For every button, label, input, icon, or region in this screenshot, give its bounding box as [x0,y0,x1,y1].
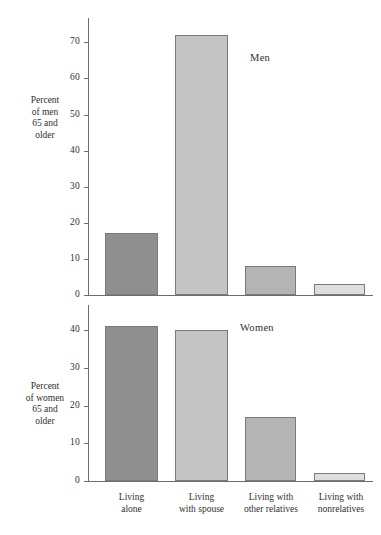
y-axis-title-women-line-1: Percent [8,381,82,393]
x-axis-line-women [88,481,373,482]
bar-women-living-with-nonrelatives [314,473,365,481]
y-tick-women-20 [84,406,89,407]
y-tick-women-40 [84,330,89,331]
y-tick-women-30 [84,368,89,369]
category-label-living-alone-line-1: Living [99,492,164,504]
bar-women-living-alone [105,326,158,481]
y-tick-label-women-40: 40 [58,325,80,335]
category-label-living-with-nonrelatives: Living with nonrelatives [305,492,377,515]
category-label-living-with-nonrelatives-line-1: Living with [305,492,377,504]
y-axis-title-women-line-4: older [8,416,82,428]
category-label-living-alone: Living alone [99,492,164,515]
category-label-living-with-nonrelatives-line-2: nonrelatives [305,504,377,516]
bar-women-living-with-other-relatives [245,417,296,481]
y-tick-label-women-10: 10 [58,438,80,448]
chart-page: Percent of men 65 and older Men 0 10 20 … [0,0,381,535]
y-axis-line-women [88,305,89,481]
bar-women-living-with-spouse [175,330,228,481]
category-label-living-alone-line-2: alone [99,504,164,516]
category-label-living-with-spouse-line-1: Living [164,492,239,504]
category-label-living-with-other-relatives-line-2: other relatives [232,504,310,516]
category-label-living-with-other-relatives-line-1: Living with [232,492,310,504]
y-tick-label-women-30: 30 [58,363,80,373]
y-tick-label-women-20: 20 [58,401,80,411]
y-tick-women-10 [84,443,89,444]
category-label-living-with-other-relatives: Living with other relatives [232,492,310,515]
category-label-living-with-spouse: Living with spouse [164,492,239,515]
series-label-women: Women [240,322,274,333]
category-label-living-with-spouse-line-2: with spouse [164,504,239,516]
y-tick-women-0 [84,481,89,482]
chart-panel-women: Percent of women 65 and older Women 0 10… [0,0,381,535]
y-tick-label-women-0: 0 [58,476,80,486]
